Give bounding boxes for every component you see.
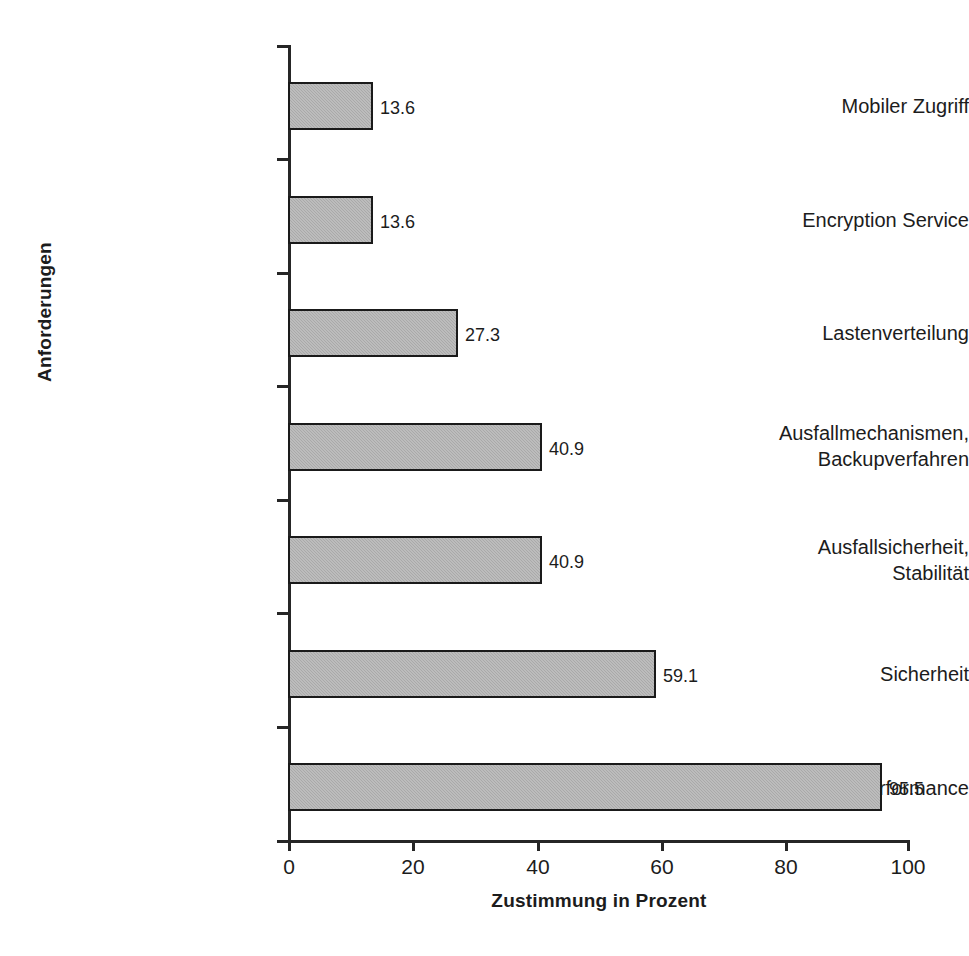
x-axis-label-100: 100 [873, 855, 943, 879]
x-axis-label-20: 20 [378, 855, 448, 879]
y-axis-tick-4 [277, 612, 288, 615]
bar-ausfallmechanismen-backupverfahren [288, 423, 542, 471]
x-axis-tick-0 [288, 840, 291, 851]
bar-sicherheit [288, 650, 656, 698]
x-axis-tick-100 [907, 840, 910, 851]
x-axis-label-80: 80 [751, 855, 821, 879]
y-axis-tick-6 [277, 840, 288, 843]
bar-value-0: 13.6 [380, 99, 415, 117]
x-axis-tick-80 [785, 840, 788, 851]
plot-area: 13.6 13.6 27.3 40.9 40.9 59.1 95.5 0 20 … [288, 45, 910, 840]
x-axis-label-60: 60 [627, 855, 697, 879]
y-axis-tick-2 [277, 385, 288, 388]
x-axis-tick-60 [661, 840, 664, 851]
bar-encryption-service [288, 196, 373, 244]
x-axis-label-40: 40 [503, 855, 573, 879]
x-axis-tick-20 [412, 840, 415, 851]
y-axis-tick-3 [277, 499, 288, 502]
x-axis-label-0: 0 [254, 855, 324, 879]
bar-mobiler-zugriff [288, 82, 373, 130]
y-axis-tick-1 [277, 272, 288, 275]
x-axis-line [288, 840, 910, 843]
y-axis-top-tick [277, 45, 288, 48]
bar-value-6: 95.5 [889, 780, 924, 798]
y-axis-title: Anforderungen [34, 212, 60, 412]
x-axis-title: Zustimmung in Prozent [288, 890, 910, 912]
y-axis-tick-0 [277, 158, 288, 161]
bar-ausfallsicherheit-stabilitaet [288, 536, 542, 584]
bar-value-5: 59.1 [663, 667, 698, 685]
bar-value-4: 40.9 [549, 553, 584, 571]
bar-performance [288, 763, 882, 811]
bar-value-2: 27.3 [465, 326, 500, 344]
y-axis-tick-5 [277, 726, 288, 729]
bar-value-3: 40.9 [549, 440, 584, 458]
bar-value-1: 13.6 [380, 213, 415, 231]
bar-lastenverteilung [288, 309, 458, 357]
x-axis-tick-40 [537, 840, 540, 851]
bar-chart: Anforderungen Mobiler Zugriff Encryption… [0, 0, 969, 956]
